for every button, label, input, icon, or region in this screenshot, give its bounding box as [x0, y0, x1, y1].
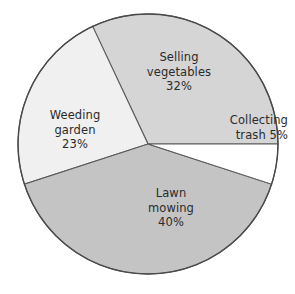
pie-chart-svg: [0, 0, 295, 294]
pie-chart: Selling vegetables 32% Collecting trash …: [0, 0, 295, 294]
